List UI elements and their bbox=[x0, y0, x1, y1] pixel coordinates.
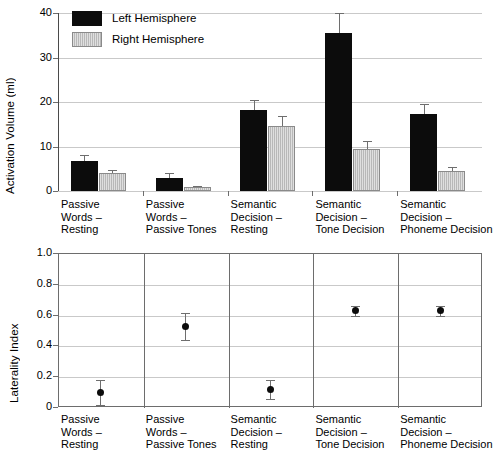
error-bar-cap bbox=[266, 380, 275, 381]
gridline bbox=[59, 316, 481, 317]
x-axis-tick-mark bbox=[312, 191, 313, 196]
y-axis-tick-mark bbox=[53, 315, 58, 316]
error-bar-cap bbox=[181, 340, 190, 341]
scatter-chart-y-axis-label: Laterality Index bbox=[8, 273, 20, 403]
x-axis-category-label: Semantic Decision – Tone Decision bbox=[315, 413, 412, 451]
x-axis-tick-mark bbox=[228, 191, 229, 196]
x-axis-tick-mark bbox=[143, 191, 144, 196]
bar-right-hemisphere bbox=[438, 171, 465, 191]
x-axis-category-label: Passive Words – Resting bbox=[61, 413, 158, 451]
panel-separator-line bbox=[144, 254, 145, 408]
scatter-chart-panel: Laterality Index 00.20.40.60.81.0Passive… bbox=[0, 229, 489, 458]
error-bar-cap bbox=[335, 13, 344, 14]
y-axis-tick-label: 1.0 bbox=[14, 247, 52, 258]
bar-chart-y-axis-label: Activation Volume (ml) bbox=[4, 18, 16, 194]
y-axis-tick-label: 20 bbox=[16, 96, 52, 107]
error-bar bbox=[424, 104, 425, 114]
bar-right-hemisphere bbox=[268, 126, 295, 191]
x-axis-line bbox=[58, 191, 482, 192]
data-point bbox=[267, 386, 274, 393]
y-axis-tick-mark bbox=[53, 345, 58, 346]
error-bar-cap bbox=[351, 316, 360, 317]
y-axis-tick-mark bbox=[53, 407, 58, 408]
bar-left-hemisphere bbox=[156, 178, 183, 191]
gridline bbox=[59, 377, 481, 378]
legend-swatch-right-hemisphere bbox=[72, 32, 102, 47]
bar-right-hemisphere bbox=[99, 173, 126, 191]
y-axis-tick-mark bbox=[53, 253, 58, 254]
y-axis-tick-label: 0.6 bbox=[14, 309, 52, 320]
legend-label-right-hemisphere: Right Hemisphere bbox=[112, 31, 204, 48]
error-bar-cap bbox=[181, 313, 190, 314]
y-axis-line bbox=[58, 13, 59, 192]
panel-separator-line bbox=[313, 254, 314, 408]
bar-group bbox=[228, 13, 313, 191]
bar-group bbox=[397, 13, 482, 191]
gridline bbox=[59, 346, 481, 347]
y-axis-tick-label: 40 bbox=[16, 7, 52, 18]
error-bar bbox=[367, 141, 368, 149]
y-axis-tick-mark bbox=[53, 284, 58, 285]
error-bar bbox=[339, 13, 340, 33]
x-axis-category-label: Semantic Decision – Resting bbox=[231, 413, 328, 451]
error-bar-cap bbox=[96, 405, 105, 406]
y-axis-tick-label: 0.4 bbox=[14, 339, 52, 350]
x-axis-category-label: Semantic Decision – Phoneme Decision bbox=[400, 413, 497, 451]
gridline bbox=[59, 285, 481, 286]
bar-left-hemisphere bbox=[71, 161, 98, 191]
data-point bbox=[352, 307, 359, 314]
y-axis-tick-mark bbox=[53, 376, 58, 377]
error-bar-cap bbox=[250, 100, 259, 101]
data-point bbox=[437, 307, 444, 314]
error-bar-cap bbox=[96, 380, 105, 381]
y-axis-tick-label: 0 bbox=[14, 401, 52, 412]
error-bar-cap bbox=[436, 316, 445, 317]
error-bar-cap bbox=[278, 116, 287, 117]
error-bar-cap bbox=[165, 173, 174, 174]
error-bar bbox=[282, 116, 283, 126]
y-axis-tick-label: 0.2 bbox=[14, 370, 52, 381]
x-axis-tick-mark bbox=[397, 191, 398, 196]
panel-separator-line bbox=[229, 254, 230, 408]
bar-left-hemisphere bbox=[240, 110, 267, 191]
bar-left-hemisphere bbox=[410, 114, 437, 191]
legend-label-left-hemisphere: Left Hemisphere bbox=[112, 10, 196, 27]
scatter-chart-plot-area bbox=[58, 253, 482, 407]
panel-separator-line bbox=[398, 254, 399, 408]
error-bar-cap bbox=[266, 399, 275, 400]
x-axis-category-label: Passive Words – Passive Tones bbox=[146, 413, 243, 451]
error-bar-cap bbox=[420, 104, 429, 105]
error-bar-cap bbox=[363, 141, 372, 142]
y-axis-tick-label: 0 bbox=[16, 185, 52, 196]
error-bar-cap bbox=[80, 155, 89, 156]
bar-chart-panel: Activation Volume (ml) Left Hemisphere R… bbox=[0, 0, 489, 229]
bar-left-hemisphere bbox=[325, 33, 352, 191]
y-axis-tick-label: 30 bbox=[16, 52, 52, 63]
data-point bbox=[97, 389, 104, 396]
y-axis-tick-label: 10 bbox=[16, 141, 52, 152]
legend-swatch-left-hemisphere bbox=[72, 11, 102, 26]
bar-group bbox=[312, 13, 397, 191]
data-point bbox=[182, 323, 189, 330]
error-bar-cap bbox=[448, 167, 457, 168]
error-bar-cap bbox=[193, 186, 202, 187]
error-bar bbox=[254, 100, 255, 110]
bar-right-hemisphere bbox=[353, 149, 380, 191]
error-bar-cap bbox=[108, 170, 117, 171]
y-axis-tick-label: 0.8 bbox=[14, 278, 52, 289]
